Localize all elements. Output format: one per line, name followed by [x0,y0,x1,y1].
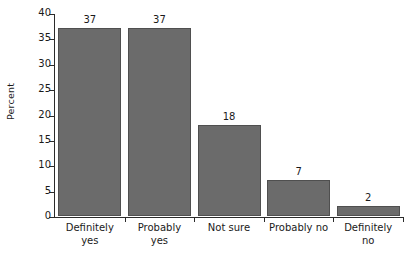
bar-chart: Percent 0510152025303540 37371872 Defini… [0,0,411,259]
x-axis-category-label-line: Definitely [326,222,410,235]
y-axis-tick-label: 30 [38,58,51,69]
bar-value-label: 37 [60,14,120,25]
bar [198,125,261,216]
y-axis-tick-label: 0 [45,210,51,221]
x-axis-line [54,217,403,218]
y-axis-tick-label: 20 [38,109,51,120]
y-axis-tick-label: 25 [38,83,51,94]
bar-value-label: 7 [269,166,329,177]
y-axis-title: Percent [5,70,16,134]
bar [337,206,400,216]
bar [267,180,330,216]
y-axis-tick-label: 40 [38,7,51,18]
plot-area: 0510152025303540 37371872 [55,14,403,217]
y-axis-tick-label: 35 [38,32,51,43]
y-axis-tick-label: 15 [38,134,51,145]
y-axis-tick-label: 5 [45,185,51,196]
bar-value-label: 37 [129,14,189,25]
bar-value-label: 2 [338,192,398,203]
x-axis-category-label-line: yes [117,235,201,248]
bar [128,28,191,216]
y-axis-tick-label: 10 [38,159,51,170]
x-axis-category-label: Definitelyno [326,222,410,247]
bar [58,28,121,216]
bar-value-label: 18 [199,111,259,122]
x-axis-category-label-line: no [326,235,410,248]
